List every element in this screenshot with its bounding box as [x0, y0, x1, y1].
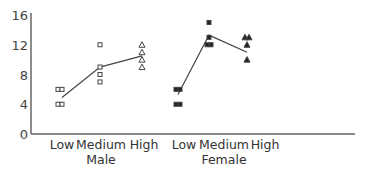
open-square-marker	[98, 80, 102, 84]
y-tick-label: 4	[20, 97, 28, 112]
open-square-marker	[56, 102, 60, 106]
data-points	[56, 20, 252, 106]
open-square-marker	[98, 43, 102, 47]
filled-square-marker	[209, 43, 213, 47]
open-triangle-marker	[139, 64, 145, 70]
filled-square-marker	[205, 43, 209, 47]
x-category-label: High	[130, 137, 159, 152]
filled-square-marker	[174, 87, 178, 91]
x-category-label: Low	[172, 137, 197, 152]
filled-square-marker	[174, 102, 178, 106]
x-category-label: Medium	[199, 137, 249, 152]
chart: 1612840LowMediumHighLowMediumHighMaleFem…	[0, 0, 372, 174]
open-square-marker	[60, 87, 64, 91]
filled-square-marker	[178, 102, 182, 106]
x-category-label: High	[251, 137, 280, 152]
x-group-label: Female	[201, 152, 247, 167]
x-category-label: Low	[50, 137, 75, 152]
x-group-label: Male	[86, 152, 116, 167]
open-triangle-marker	[139, 57, 145, 63]
filled-triangle-marker	[244, 42, 250, 48]
axes	[31, 13, 355, 134]
y-tick-label: 12	[11, 38, 28, 53]
filled-triangle-marker	[244, 57, 250, 63]
filled-square-marker	[207, 20, 211, 24]
axis-labels: 1612840LowMediumHighLowMediumHighMaleFem…	[11, 8, 279, 167]
y-tick-label: 8	[20, 68, 28, 83]
open-triangle-marker	[139, 49, 145, 55]
filled-square-marker	[178, 87, 182, 91]
y-tick-label: 0	[20, 127, 28, 142]
x-category-label: Medium	[76, 137, 126, 152]
open-square-marker	[56, 87, 60, 91]
open-square-marker	[98, 73, 102, 77]
y-tick-label: 16	[11, 8, 28, 23]
open-square-marker	[60, 102, 64, 106]
open-triangle-marker	[139, 42, 145, 48]
filled-square-marker	[207, 35, 211, 39]
open-square-marker	[98, 65, 102, 69]
mean-lines	[62, 35, 247, 97]
